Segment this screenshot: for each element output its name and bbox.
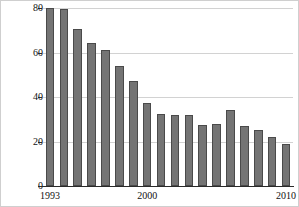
x-tick-label: 2010 (276, 190, 296, 201)
bar (198, 125, 207, 186)
bar (185, 115, 194, 186)
x-tick-label: 2000 (137, 190, 157, 201)
y-tick-mark (38, 97, 42, 98)
bar (171, 115, 180, 186)
bar (60, 9, 69, 186)
bar (157, 114, 166, 186)
bar (240, 126, 249, 186)
y-tick-mark (38, 142, 42, 143)
bar-chart-figure: Victimization rate (per 1,000) 020406080… (0, 0, 299, 207)
bar (254, 130, 263, 186)
y-tick-mark (38, 8, 42, 9)
x-tick-label: 1993 (40, 190, 60, 201)
bar (282, 144, 291, 186)
bar (143, 103, 152, 186)
y-axis-ticks: 020406080 (1, 1, 43, 207)
bar (73, 29, 82, 186)
bar-series (43, 8, 293, 186)
bar (87, 43, 96, 187)
bar (226, 110, 235, 186)
bar (268, 137, 277, 186)
y-tick-mark (38, 53, 42, 54)
x-axis-line (41, 186, 294, 187)
bar (115, 66, 124, 186)
bar (101, 50, 110, 186)
bar (212, 124, 221, 186)
bar (46, 8, 55, 186)
bar (129, 81, 138, 186)
